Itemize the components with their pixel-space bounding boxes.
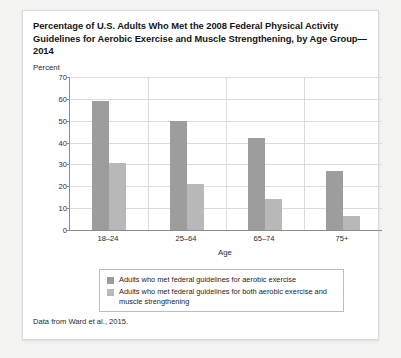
- group-divider: [304, 77, 305, 230]
- group-divider: [148, 77, 149, 230]
- bar: [109, 163, 126, 230]
- legend-item-label: Adults who met federal guidelines for ae…: [119, 275, 296, 284]
- y-axis-tick-mark: [67, 77, 70, 78]
- legend-item-label: Adults who met federal guidelines for bo…: [119, 287, 336, 306]
- y-axis-tick-mark: [67, 208, 70, 209]
- y-axis-tick-label: 0: [45, 226, 67, 235]
- chart-legend: Adults who met federal guidelines for ae…: [99, 269, 344, 312]
- y-axis-tick-label: 30: [45, 160, 67, 169]
- x-axis-tick-label: 18–24: [97, 234, 118, 243]
- y-axis-tick-label: 20: [45, 182, 67, 191]
- legend-swatch-icon: [107, 277, 114, 284]
- x-axis-tick-labels: 18–2425–6465–7475+: [69, 234, 381, 246]
- x-axis-title: Age: [69, 248, 381, 257]
- x-axis-tick-label: 75+: [336, 234, 349, 243]
- bar: [170, 121, 187, 230]
- bar: [326, 171, 343, 230]
- y-axis-tick-mark: [67, 99, 70, 100]
- y-axis-tick-labels: 010203040506070: [37, 77, 67, 230]
- chart-plot-region: Percent 010203040506070 18–2425–6465–747…: [23, 63, 380, 263]
- bar: [343, 216, 360, 230]
- y-axis-tick-mark: [67, 164, 70, 165]
- y-axis-tick-mark: [67, 186, 70, 187]
- y-axis-tick-mark: [67, 121, 70, 122]
- plot-area: [69, 77, 382, 231]
- y-axis-tick-label: 60: [45, 94, 67, 103]
- y-axis-title: Percent: [33, 63, 60, 72]
- y-axis-tick-label: 70: [45, 73, 67, 82]
- y-axis-tick-label: 10: [45, 204, 67, 213]
- legend-item-aerobic: Adults who met federal guidelines for ae…: [107, 275, 336, 284]
- y-axis-tick-label: 50: [45, 116, 67, 125]
- bar: [265, 199, 282, 230]
- x-axis-tick-label: 25–64: [175, 234, 196, 243]
- group-divider: [226, 77, 227, 230]
- bar: [248, 138, 265, 230]
- legend-swatch-icon: [107, 289, 114, 296]
- bar: [187, 184, 204, 230]
- legend-item-both: Adults who met federal guidelines for bo…: [107, 287, 336, 306]
- y-axis-tick-label: 40: [45, 138, 67, 147]
- chart-card: Percentage of U.S. Adults Who Met the 20…: [22, 10, 379, 340]
- bar: [92, 101, 109, 230]
- y-axis-tick-mark: [67, 143, 70, 144]
- screenshot-canvas: Percentage of U.S. Adults Who Met the 20…: [0, 0, 401, 358]
- x-axis-tick-label: 65–74: [253, 234, 274, 243]
- chart-title: Percentage of U.S. Adults Who Met the 20…: [33, 20, 371, 58]
- chart-source-note: Data from Ward et al., 2015.: [33, 317, 128, 326]
- y-axis-tick-mark: [67, 230, 70, 231]
